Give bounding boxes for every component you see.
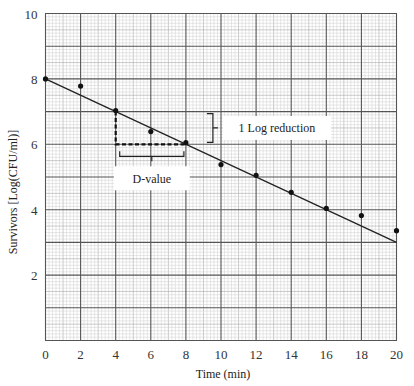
- x-tick-labels: 02468101214161820: [42, 347, 403, 362]
- data-point: [43, 76, 48, 81]
- x-tick-label: 10: [215, 347, 228, 362]
- x-tick-label: 0: [42, 347, 49, 362]
- y-axis-label: Survivors [Log(CFU/ml)]: [6, 130, 20, 254]
- x-tick-label: 6: [148, 347, 155, 362]
- data-point: [113, 108, 118, 113]
- y-tick-label: 6: [31, 137, 38, 152]
- d-value-label: D-value: [132, 172, 171, 186]
- x-tick-label: 14: [285, 347, 299, 362]
- data-point: [148, 129, 153, 134]
- y-tick-label: 10: [25, 7, 38, 22]
- data-point: [289, 190, 294, 195]
- x-tick-label: 16: [320, 347, 334, 362]
- data-point: [183, 140, 188, 145]
- data-point: [254, 173, 259, 178]
- data-point: [78, 83, 83, 88]
- x-tick-label: 2: [77, 347, 84, 362]
- y-tick-label: 4: [31, 203, 38, 218]
- x-tick-label: 12: [250, 347, 263, 362]
- data-point: [394, 228, 399, 233]
- data-point: [324, 206, 329, 211]
- data-point: [218, 162, 223, 167]
- y-tick-label: 8: [31, 72, 38, 87]
- data-point: [359, 213, 364, 218]
- x-tick-label: 8: [183, 347, 190, 362]
- log-reduction-label: 1 Log reduction: [239, 121, 316, 135]
- y-tick-label: 2: [31, 268, 38, 283]
- x-tick-label: 4: [112, 347, 119, 362]
- d-value-bracket: [120, 151, 184, 161]
- x-tick-label: 18: [355, 347, 368, 362]
- x-axis-label: Time (min): [196, 367, 251, 381]
- chart: 02468101214161820 246810 Time (min) Surv…: [0, 0, 414, 386]
- x-tick-label: 20: [390, 347, 403, 362]
- y-tick-labels: 246810: [25, 7, 39, 284]
